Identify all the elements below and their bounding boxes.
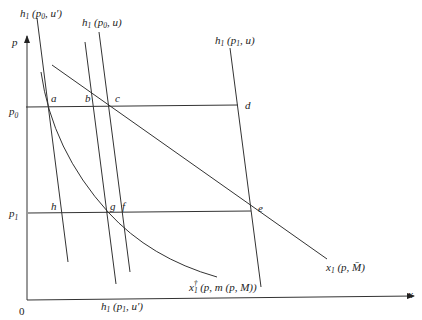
point-c: c	[115, 92, 120, 104]
price-line-p0	[26, 105, 238, 107]
x-axis-label: x	[407, 288, 413, 300]
y-axis-label: p	[11, 36, 18, 48]
price-label-p1: p1	[8, 207, 18, 222]
curve-hicksian-p0-u	[99, 32, 130, 272]
curve-marshallian	[52, 65, 327, 259]
point-d: d	[245, 99, 251, 111]
point-h: h	[51, 200, 57, 212]
label-hicksian-p1-u: h1 (p1, u)	[215, 34, 255, 48]
curve-hicksian-p0-uprime	[37, 18, 68, 262]
curve-hicksian-p1-u	[230, 48, 261, 287]
label-marshallian: x1 (p, M̄)	[325, 261, 365, 275]
point-e: e	[258, 202, 263, 214]
price-label-p0: p0	[8, 105, 19, 120]
point-a: a	[51, 92, 57, 104]
label-hicksian-p1-uprime: h1 (p1, u′)	[101, 300, 143, 314]
point-g: g	[110, 200, 116, 212]
label-hicksian-p0-uprime: h1 (p0, u′)	[20, 7, 62, 21]
label-compensated-demand: x1† (p, m (p, M))	[188, 279, 257, 295]
curve-compensated-demand	[41, 72, 217, 277]
origin-label: 0	[19, 305, 25, 317]
point-b: b	[85, 92, 91, 104]
curve-hicksian-p0-u-left	[85, 42, 116, 284]
x-axis	[27, 296, 414, 300]
point-f: f	[122, 200, 127, 212]
demand-diagram: p x 0 p0 p1 h1 (p0, u′) h1 (p0, u) h1 (p…	[0, 0, 422, 320]
label-hicksian-p0-u: h1 (p0, u)	[82, 16, 122, 30]
